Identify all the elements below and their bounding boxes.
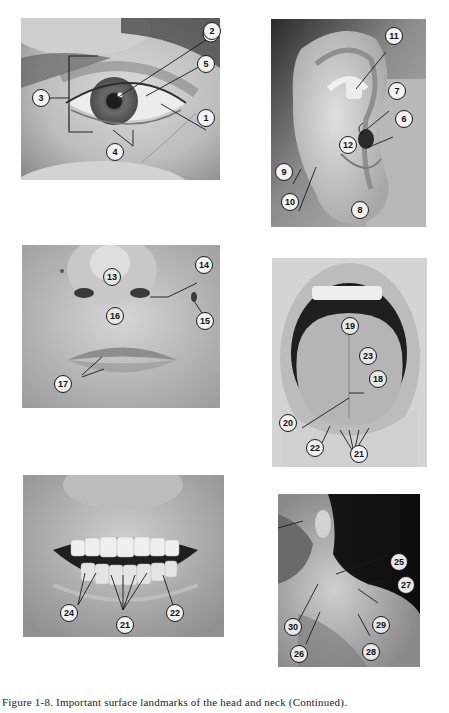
callout-label: 10: [285, 197, 295, 207]
callout-label: 22: [170, 608, 180, 618]
callout-label: 20: [283, 418, 293, 428]
callout-22: 22: [306, 439, 324, 457]
callout-9: 9: [275, 163, 293, 181]
callout-14: 14: [195, 256, 213, 274]
callout-label: 3: [38, 93, 43, 103]
teeth-photo: [23, 475, 224, 637]
callout-7: 7: [388, 82, 406, 100]
callout-label: 23: [363, 351, 373, 361]
teeth-illustration: [23, 475, 224, 637]
callout-label: 2: [209, 26, 214, 36]
callout-29: 29: [372, 616, 390, 634]
tongue-illustration: [272, 258, 427, 467]
callout-25: 25: [390, 553, 408, 571]
callout-20: 20: [279, 414, 297, 432]
callout-label: 4: [112, 147, 117, 157]
callout-label: 11: [389, 31, 399, 41]
callout-label: 27: [401, 580, 411, 590]
callout-12: 12: [339, 136, 357, 154]
callout-24: 24: [60, 604, 78, 622]
callout-label: 26: [294, 649, 304, 659]
callout-10: 10: [281, 193, 299, 211]
callout-label: 13: [107, 272, 117, 282]
callout-label: 28: [366, 647, 376, 657]
tongue-photo: [272, 258, 427, 467]
callout-17: 17: [54, 375, 72, 393]
nose-lips-photo: [22, 245, 220, 408]
callout-label: 14: [199, 260, 209, 270]
callout-13: 13: [103, 268, 121, 286]
callout-label: 1: [203, 113, 208, 123]
callout-label: 8: [357, 205, 362, 215]
callout-label: 7: [394, 86, 399, 96]
callout-26: 26: [290, 645, 308, 663]
callout-11: 11: [385, 27, 403, 45]
callout-label: 17: [58, 379, 68, 389]
callout-21-teeth: 21: [116, 616, 134, 634]
callout-28: 28: [362, 643, 380, 661]
callout-4: 4: [106, 143, 124, 161]
callout-21: 21: [350, 445, 368, 463]
callout-6: 6: [395, 110, 413, 128]
callout-23: 23: [359, 347, 377, 365]
callout-label: 6: [401, 114, 406, 124]
callout-2: 2: [203, 22, 221, 40]
callout-27: 27: [397, 576, 415, 594]
callout-22-teeth: 22: [166, 604, 184, 622]
callout-label: 16: [110, 311, 120, 321]
callout-19: 19: [341, 317, 359, 335]
callout-label: 29: [376, 620, 386, 630]
callout-label: 24: [64, 608, 74, 618]
callout-30: 30: [284, 618, 302, 636]
callout-8: 8: [351, 201, 369, 219]
callout-1: 1: [197, 109, 215, 127]
callout-18: 18: [369, 370, 387, 388]
callout-label: 5: [203, 59, 208, 69]
callout-label: 9: [281, 167, 286, 177]
callout-5: 5: [197, 55, 215, 73]
callout-label: 30: [288, 622, 298, 632]
callout-15: 15: [196, 312, 214, 330]
callout-label: 22: [310, 443, 320, 453]
callout-label: 21: [120, 620, 130, 630]
figure-caption: Figure 1-8. Important surface landmarks …: [0, 696, 449, 713]
callout-3: 3: [32, 89, 50, 107]
callout-label: 12: [343, 140, 353, 150]
callout-label: 18: [373, 374, 383, 384]
callout-label: 25: [394, 557, 404, 567]
callout-label: 21: [354, 449, 364, 459]
nose-lips-illustration: [22, 245, 220, 408]
callout-label: 15: [200, 316, 210, 326]
callout-label: 19: [345, 321, 355, 331]
callout-16: 16: [106, 307, 124, 325]
